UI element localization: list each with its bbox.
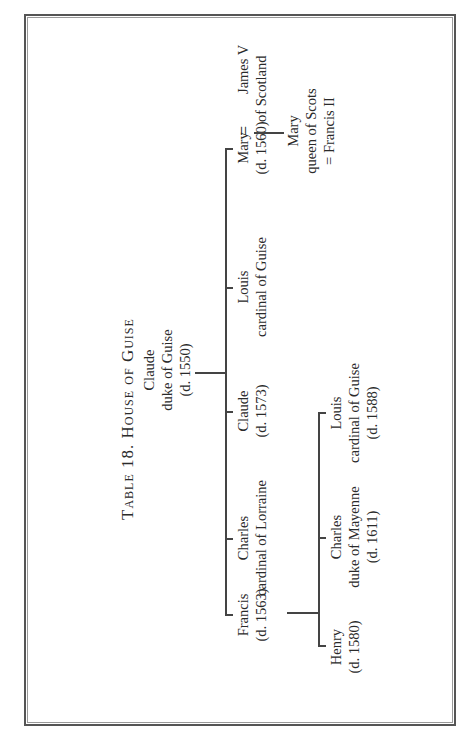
person-title: cardinal of Guise bbox=[252, 222, 270, 352]
person-name: James V bbox=[234, 12, 252, 122]
person-dates: (d. 1573) bbox=[252, 366, 270, 456]
person-name: Charles bbox=[234, 468, 252, 608]
francis-connector bbox=[287, 612, 319, 614]
person-dates: (d. 1580) bbox=[345, 602, 363, 692]
person-charles-cardinal: Charles cardinal of Lorraine bbox=[234, 468, 270, 608]
person-title: cardinal of Guise bbox=[345, 348, 363, 478]
tick-francis bbox=[225, 614, 233, 616]
person-name: Henry bbox=[327, 602, 345, 692]
tick-charles-mayenne bbox=[318, 537, 326, 539]
grandchildren-bracket bbox=[318, 412, 320, 646]
person-louis-cardinal: Louis cardinal of Guise bbox=[234, 222, 270, 352]
person-name: Claude bbox=[234, 366, 252, 456]
person-name: Charles bbox=[327, 474, 345, 600]
person-claude-1573: Claude (d. 1573) bbox=[234, 366, 270, 456]
person-name: Mary bbox=[284, 72, 302, 190]
person-dates: (d. 1611) bbox=[363, 474, 381, 600]
person-henry: Henry (d. 1580) bbox=[327, 602, 363, 692]
person-james-v: James V of Scotland bbox=[234, 12, 270, 122]
root-connector bbox=[195, 372, 226, 374]
tick-louis-1588 bbox=[318, 412, 326, 414]
person-title: duke of Guise bbox=[158, 310, 176, 430]
person-name: Louis bbox=[234, 222, 252, 352]
person-spouse: = Francis II bbox=[320, 72, 338, 190]
person-mary-queen-of-scots: Mary queen of Scots = Francis II bbox=[284, 72, 338, 190]
tick-henry bbox=[318, 645, 326, 647]
tick-louis bbox=[225, 287, 233, 289]
children-bracket bbox=[225, 148, 227, 615]
marriage-symbol: = bbox=[235, 120, 253, 142]
person-claude-duke: Claude duke of Guise (d. 1550) bbox=[140, 310, 194, 430]
tick-mary bbox=[225, 148, 233, 150]
person-dates: (d. 1550) bbox=[176, 310, 194, 430]
descent-line-mary bbox=[254, 132, 284, 134]
person-charles-mayenne: Charles duke of Mayenne (d. 1611) bbox=[327, 474, 381, 600]
person-title: duke of Mayenne bbox=[345, 474, 363, 600]
person-title: of Scotland bbox=[252, 12, 270, 122]
person-title: cardinal of Lorraine bbox=[252, 468, 270, 608]
person-louis-1588: Louis cardinal of Guise (d. 1588) bbox=[327, 348, 381, 478]
tick-claude bbox=[225, 411, 233, 413]
person-dates: (d. 1588) bbox=[363, 348, 381, 478]
table-title: Table 18. House of Guise bbox=[118, 160, 138, 520]
title-text: Table 18. House of Guise bbox=[118, 160, 138, 520]
person-name: Claude bbox=[140, 310, 158, 430]
tick-charles bbox=[225, 538, 233, 540]
person-title: queen of Scots bbox=[302, 72, 320, 190]
person-name: Louis bbox=[327, 348, 345, 478]
